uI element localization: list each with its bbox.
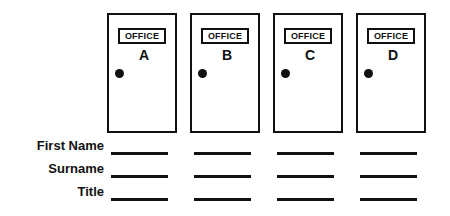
office-sign-d: OFFICE (367, 28, 415, 44)
form-row-title: Title (0, 184, 450, 204)
office-sign-c: OFFICE (284, 28, 332, 44)
answer-blank-surname-d[interactable] (360, 175, 417, 178)
form-row-surname: Surname (0, 161, 450, 181)
door-knob-icon (115, 69, 124, 78)
door-letter-d: D (358, 48, 428, 62)
answer-blank-first-name-a[interactable] (111, 152, 168, 155)
answer-blank-surname-c[interactable] (277, 175, 334, 178)
answer-blank-title-b[interactable] (194, 198, 251, 201)
row-label-surname: Surname (0, 161, 104, 177)
door-letter-b: B (192, 48, 262, 62)
door-knob-icon (364, 69, 373, 78)
office-sign-a: OFFICE (118, 28, 166, 44)
form-row-first-name: First Name (0, 138, 450, 158)
answer-blank-surname-b[interactable] (194, 175, 251, 178)
answer-blank-first-name-c[interactable] (277, 152, 334, 155)
door-b[interactable]: OFFICE B (190, 13, 260, 133)
door-letter-c: C (275, 48, 345, 62)
door-letter-a: A (109, 48, 179, 62)
office-sign-label: OFFICE (125, 32, 159, 41)
answer-blank-surname-a[interactable] (111, 175, 168, 178)
office-sign-label: OFFICE (208, 32, 242, 41)
answer-blank-title-d[interactable] (360, 198, 417, 201)
office-sign-label: OFFICE (374, 32, 408, 41)
row-label-title: Title (0, 184, 104, 200)
door-c[interactable]: OFFICE C (273, 13, 343, 133)
door-d[interactable]: OFFICE D (356, 13, 426, 133)
row-label-first-name: First Name (0, 138, 104, 154)
answer-blank-first-name-b[interactable] (194, 152, 251, 155)
worksheet-canvas: OFFICE A OFFICE B OFFICE C OFFICE D Firs… (0, 0, 450, 216)
door-knob-icon (198, 69, 207, 78)
office-sign-label: OFFICE (291, 32, 325, 41)
door-knob-icon (281, 69, 290, 78)
answer-blank-title-a[interactable] (111, 198, 168, 201)
office-sign-b: OFFICE (201, 28, 249, 44)
door-a[interactable]: OFFICE A (107, 13, 177, 133)
answer-blank-first-name-d[interactable] (360, 152, 417, 155)
answer-blank-title-c[interactable] (277, 198, 334, 201)
